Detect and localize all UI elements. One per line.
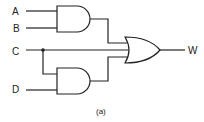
and-gate-2	[57, 68, 90, 94]
figure-caption: (a)	[96, 107, 106, 116]
logic-circuit-diagram: A B C D W (a)	[0, 0, 204, 122]
junction-dot	[41, 48, 45, 52]
or-gate	[125, 37, 160, 63]
wire-c-branch	[43, 50, 57, 74]
wire-and2-out	[90, 57, 128, 81]
wire-and1-out	[90, 19, 128, 43]
input-label-c: C	[12, 46, 19, 57]
input-label-b: B	[13, 23, 20, 34]
input-label-a: A	[12, 6, 19, 17]
and-gate-1	[57, 6, 90, 32]
input-label-d: D	[12, 84, 19, 95]
output-label-w: W	[188, 45, 198, 56]
